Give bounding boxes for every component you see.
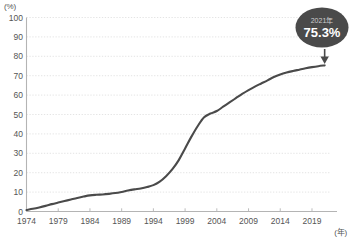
x-tick-label: 1989 (112, 216, 131, 226)
x-axis-tick-labels: 1974197919841989199419992004200920142019 (17, 216, 322, 226)
chart-container: (%) (年) 0102030405060708090100 197419791… (0, 0, 349, 239)
y-tick-label: 20 (14, 168, 24, 178)
callout-annotation: 2021年 75.3% (296, 8, 349, 64)
x-tick-label: 2004 (207, 216, 226, 226)
line-chart-plot: 0102030405060708090100 19741979198419891… (0, 0, 349, 239)
y-axis-tick-labels: 0102030405060708090100 (9, 13, 23, 217)
y-tick-label: 10 (14, 187, 24, 197)
x-tick-label: 2014 (271, 216, 290, 226)
y-tick-label: 70 (14, 71, 24, 81)
y-tick-label: 30 (14, 148, 24, 158)
callout-value-label: 75.3% (304, 25, 341, 40)
y-tick-label: 80 (14, 51, 24, 61)
x-tick-label: 1979 (49, 216, 68, 226)
x-tick-label: 2009 (239, 216, 258, 226)
x-tick-label: 1974 (17, 216, 36, 226)
y-tick-label: 50 (14, 110, 24, 120)
x-tick-label: 1984 (80, 216, 99, 226)
x-tick-label: 1994 (144, 216, 163, 226)
x-tick-label: 2019 (303, 216, 322, 226)
y-tick-label: 40 (14, 129, 24, 139)
gridlines (27, 18, 332, 193)
data-series-line (27, 65, 325, 210)
y-tick-label: 60 (14, 90, 24, 100)
x-tick-label: 1999 (176, 216, 195, 226)
callout-arrow-head (320, 56, 328, 64)
y-tick-label: 100 (9, 13, 23, 23)
y-tick-label: 90 (14, 32, 24, 42)
